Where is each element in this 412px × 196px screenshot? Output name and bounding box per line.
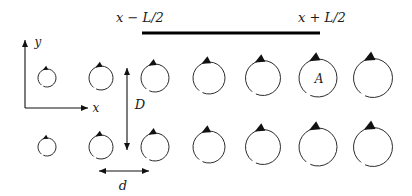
area-label-A: A [314, 72, 324, 86]
bottom-row-vortices [38, 121, 393, 167]
vortex-bottom-5 [299, 121, 337, 166]
vortex-ring [245, 129, 280, 164]
vortex-layer: A [38, 52, 393, 167]
y-axis-arrowhead [22, 40, 28, 47]
vortex-direction-arrow [148, 59, 156, 66]
dimension-arrowhead-bottom [124, 143, 130, 150]
vortex-direction-arrow [309, 52, 320, 61]
vortex-top-3 [193, 56, 225, 94]
dimension-d [99, 168, 149, 174]
vortex-top-6 [354, 52, 393, 98]
vortex-ring [38, 138, 56, 156]
vortex-ring [89, 66, 113, 90]
vortex-bottom-0 [38, 135, 56, 156]
slab-right-label: x + L/2 [298, 10, 346, 25]
vortex-ring [354, 59, 393, 98]
vortex-direction-arrow [95, 131, 102, 137]
dimension-D [124, 68, 130, 150]
vortex-ring [141, 64, 169, 92]
figure-text-layer: x − L/2x + L/2yxDd [34, 10, 346, 193]
top-row-vortices: A [38, 52, 393, 98]
vortex-ring [246, 60, 281, 95]
vortex-bottom-4 [245, 123, 280, 164]
vortex-ring [299, 128, 337, 166]
dimension-label-D: D [134, 97, 146, 112]
vortex-ring [193, 62, 225, 94]
vortex-ring [193, 131, 225, 163]
vortex-direction-arrow [255, 54, 265, 62]
dimension-arrowhead-top [124, 68, 130, 75]
vortex-ring [354, 128, 393, 167]
vortex-direction-arrow [309, 121, 320, 130]
axis-label-x: x [93, 101, 100, 115]
vortex-ring [89, 135, 113, 159]
vortex-top-5: A [299, 52, 337, 97]
slab-left-label: x − L/2 [116, 10, 164, 25]
vortex-direction-arrow [364, 52, 376, 61]
vortex-direction-arrow [43, 135, 48, 139]
dimension-arrowhead-left [99, 168, 106, 174]
x-axis-arrowhead [81, 105, 88, 111]
vortex-direction-arrow [201, 56, 211, 64]
coordinate-axes [22, 40, 88, 111]
vortex-direction-arrow [148, 128, 156, 135]
axis-label-y: y [34, 35, 42, 49]
vortex-direction-arrow [364, 121, 376, 130]
vortex-bottom-1 [89, 131, 113, 159]
vortex-ring [141, 133, 169, 161]
vortex-bottom-3 [193, 125, 225, 163]
vortex-array-figure: A x − L/2x + L/2yxDd [0, 0, 412, 196]
vortex-direction-arrow [201, 125, 211, 133]
figure-canvas: A x − L/2x + L/2yxDd [0, 0, 412, 196]
x-axis [25, 105, 88, 111]
vortex-top-1 [89, 62, 113, 90]
vortex-bottom-6 [354, 121, 393, 167]
vortex-ring [38, 69, 56, 87]
vortex-top-0 [38, 66, 56, 87]
vortex-top-4 [246, 54, 281, 95]
vortex-direction-arrow [95, 62, 102, 68]
vortex-bottom-2 [141, 128, 169, 161]
dimension-arrowhead-right [142, 168, 149, 174]
vortex-direction-arrow [43, 66, 48, 70]
vortex-top-2 [141, 59, 169, 92]
y-axis [22, 40, 28, 108]
vortex-direction-arrow [255, 123, 265, 131]
dimension-label-d: d [119, 178, 127, 193]
